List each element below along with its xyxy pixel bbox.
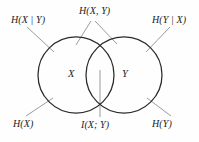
- label-mutual-information: I(X; Y): [81, 120, 109, 130]
- leader-line-joint-right: [95, 21, 117, 44]
- leader-line-hy: [147, 98, 171, 116]
- leader-line-hy-given-x: [146, 27, 170, 52]
- label-set-y: Y: [122, 69, 128, 80]
- label-entropy-y: H(Y): [152, 119, 172, 129]
- venn-diagram-figure: H(X | Y) H(X, Y) H(Y | X) H(X) I(X; Y) H…: [0, 0, 199, 142]
- label-entropy-x: H(X): [13, 119, 33, 129]
- leader-line-hx: [26, 98, 53, 116]
- leader-line-joint-left: [76, 21, 91, 45]
- circle-x: [38, 37, 114, 113]
- label-set-x: X: [68, 69, 75, 80]
- label-joint-entropy: H(X, Y): [79, 6, 110, 16]
- label-conditional-entropy-y-given-x: H(Y | X): [152, 15, 186, 25]
- leader-line-hx-given-y: [27, 27, 54, 52]
- label-conditional-entropy-x-given-y: H(X | Y): [11, 15, 45, 25]
